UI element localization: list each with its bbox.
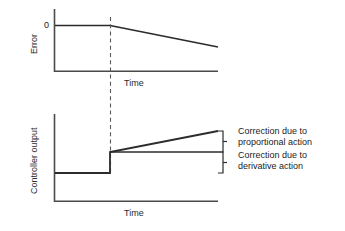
error-plot-group bbox=[54, 9, 218, 72]
derivative-bracket bbox=[218, 152, 227, 173]
controller-response-figure: Error 0 Time Controller output Time Corr… bbox=[0, 0, 345, 231]
error-y-axis-label: Error bbox=[30, 34, 39, 54]
derivative-annotation-line1: Correction due to bbox=[238, 150, 307, 161]
proportional-bracket bbox=[218, 131, 227, 152]
error-curve bbox=[55, 26, 218, 48]
proportional-annotation-line1: Correction due to bbox=[238, 126, 312, 137]
error-zero-tick-label: 0 bbox=[44, 21, 49, 30]
figure-canvas bbox=[0, 0, 345, 231]
output-y-axis-label: Controller output bbox=[30, 127, 39, 194]
proportional-action-annotation: Correction due to proportional action bbox=[238, 126, 312, 147]
proportional-annotation-line2: proportional action bbox=[238, 137, 312, 148]
output-x-axis-label: Time bbox=[124, 209, 144, 218]
error-x-axis-label: Time bbox=[124, 79, 144, 88]
output-plot-group bbox=[54, 114, 218, 202]
derivative-annotation-line2: derivative action bbox=[238, 161, 307, 172]
derivative-action-annotation: Correction due to derivative action bbox=[238, 150, 307, 171]
